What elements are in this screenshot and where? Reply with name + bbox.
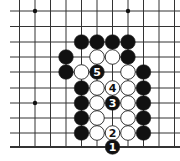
black-stone [74,81,89,96]
white-stone [90,81,105,96]
black-stone [121,35,136,50]
star-point-icon [33,9,37,13]
move-number-label: 1 [109,141,117,154]
star-point-icon [33,101,37,105]
black-stone [59,65,74,80]
move-number-label: 4 [109,82,117,95]
stones: 54321 [59,35,151,155]
white-stone [105,50,120,65]
black-stone [121,50,136,65]
black-stone [136,111,151,126]
black-stone-move-3: 3 [105,96,120,111]
black-stone [105,35,120,50]
go-board-diagram: 54321 [0,0,180,161]
black-stone [136,126,151,141]
white-stone [121,96,136,111]
white-stone [90,96,105,111]
star-point-icon [126,9,130,13]
black-stone [136,81,151,96]
white-stone [90,50,105,65]
black-stone-move-5: 5 [90,65,105,80]
white-stone-move-2: 2 [105,126,120,141]
move-number-label: 5 [93,66,101,79]
black-stone [136,65,151,80]
black-stone [74,96,89,111]
black-stone [136,96,151,111]
white-stone [74,65,89,80]
move-number-label: 2 [109,127,117,140]
black-stone [59,50,74,65]
white-stone [121,81,136,96]
white-stone [121,65,136,80]
white-stone [121,111,136,126]
white-stone [90,111,105,126]
black-stone-move-1: 1 [105,140,120,155]
move-number-label: 3 [109,97,117,110]
white-stone [121,126,136,141]
black-stone [74,126,89,141]
black-stone [90,35,105,50]
white-stone [90,126,105,141]
black-stone [74,111,89,126]
black-stone [74,35,89,50]
white-stone-move-4: 4 [105,81,120,96]
